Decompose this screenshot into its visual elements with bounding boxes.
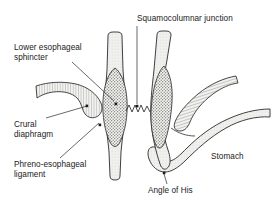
marker-les [115, 103, 118, 106]
label-crural-diaphragm: Crural diaphragm [14, 120, 53, 139]
marker-crural [86, 105, 89, 108]
marker-angle [163, 172, 166, 175]
left-crural-diaphragm [36, 82, 102, 117]
left-esophagus [103, 32, 127, 180]
label-angle-of-his: Angle of His [148, 186, 193, 196]
leader-phreno [60, 123, 99, 158]
leader-angle [164, 174, 167, 184]
marker-phreno [99, 124, 102, 127]
label-phreno-esophageal-ligament: Phreno-esophageal ligament [14, 160, 86, 179]
label-lower-esophageal-sphincter: Lower esophageal sphincter [14, 43, 82, 62]
leader-crural [46, 106, 87, 118]
label-squamocolumnar-junction: Squamocolumnar junction [137, 14, 233, 24]
marker-sqcj [136, 105, 139, 108]
label-stomach: Stomach [211, 152, 244, 162]
gej-anatomy-diagram: Lower esophageal sphincter Crural diaphr… [0, 0, 278, 205]
